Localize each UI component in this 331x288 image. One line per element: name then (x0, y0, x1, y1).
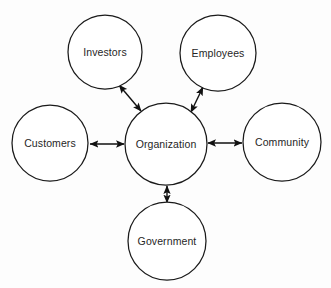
node-community-label: Community (255, 136, 310, 148)
node-organization-label: Organization (136, 138, 197, 150)
node-investors[interactable]: Investors (68, 15, 142, 89)
node-employees-label: Employees (192, 47, 245, 59)
connector-organization-employees (191, 87, 203, 112)
node-employees[interactable]: Employees (180, 15, 256, 91)
stakeholder-diagram: Investors Employees Customers Community … (0, 0, 331, 288)
node-customers[interactable]: Customers (12, 105, 88, 181)
diagram-canvas: Investors Employees Customers Community … (0, 0, 331, 288)
node-community[interactable]: Community (243, 103, 321, 181)
node-government[interactable]: Government (128, 202, 206, 280)
node-customers-label: Customers (24, 137, 76, 149)
node-investors-label: Investors (83, 46, 127, 58)
node-organization[interactable]: Organization (125, 103, 207, 185)
connector-organization-investors (119, 85, 141, 111)
node-government-label: Government (138, 235, 197, 247)
nodes-layer: Investors Employees Customers Community … (12, 15, 321, 280)
